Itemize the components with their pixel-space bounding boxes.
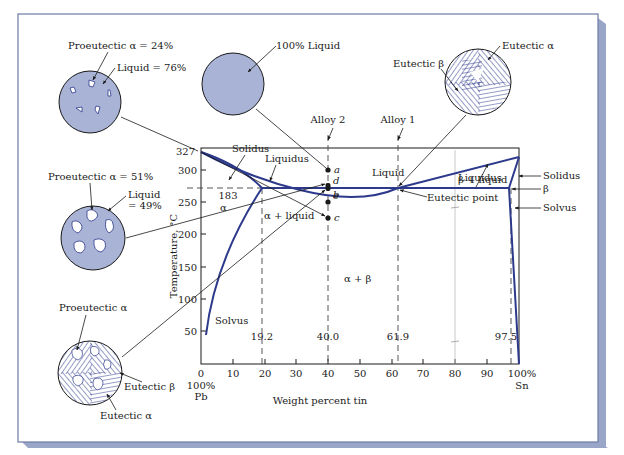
x-tick-30: 30 bbox=[290, 368, 303, 379]
x-axis-label: Weight percent tin bbox=[273, 395, 368, 406]
comp-19-2: 19.2 bbox=[251, 331, 273, 342]
label-eutectic-alpha-tr: Eutectic α bbox=[502, 40, 554, 51]
label-liquid-49-a: Liquid bbox=[128, 189, 161, 200]
annot-liquidus-right: Liquidus bbox=[458, 172, 502, 183]
x-tick-40: 40 bbox=[322, 368, 335, 379]
point-e-label: e bbox=[333, 190, 339, 201]
alloy-2-label: Alloy 2 bbox=[310, 114, 346, 125]
x-tick-100: 100% bbox=[508, 368, 537, 379]
alloy-1-label: Alloy 1 bbox=[380, 114, 416, 125]
annot-eutectic-point: Eutectic point bbox=[427, 192, 498, 203]
y-tick-250: 250 bbox=[178, 197, 197, 208]
point-d: d bbox=[333, 175, 339, 186]
annot-solvus-left: Solvus bbox=[215, 315, 248, 326]
region-liquid: Liquid bbox=[372, 167, 405, 178]
label-eutectic-alpha-bl: Eutectic α bbox=[100, 410, 152, 421]
annot-solidus-left: Solidus bbox=[232, 143, 269, 154]
point-a: a bbox=[334, 164, 340, 175]
label-proeutectic-24: Proeutectic α = 24% bbox=[68, 40, 173, 51]
y-tick-150: 150 bbox=[178, 262, 197, 273]
x-tick-90: 90 bbox=[481, 368, 494, 379]
figure: 50 100 150 200 250 300 327 0 10 20 30 40… bbox=[0, 0, 624, 455]
y-tick-200: 200 bbox=[178, 229, 197, 240]
x-tick-10: 10 bbox=[227, 368, 240, 379]
annot-solidus-right: Solidus bbox=[543, 170, 580, 181]
y-tick-327: 327 bbox=[176, 146, 195, 157]
label-eutectic-beta-tr: Eutectic β bbox=[393, 58, 444, 69]
annot-liquidus-left: Liquidus bbox=[265, 153, 309, 164]
x-end-sn: Sn bbox=[515, 380, 529, 391]
x-tick-80: 80 bbox=[449, 368, 462, 379]
y-tick-50: 50 bbox=[184, 326, 197, 337]
region-alpha-beta: α + β bbox=[344, 273, 371, 284]
comp-97-5: 97.5 bbox=[495, 331, 517, 342]
comp-40-0: 40.0 bbox=[317, 331, 339, 342]
label-liquid-76: Liquid = 76% bbox=[117, 62, 186, 73]
label-liquid-49-b: = 49% bbox=[128, 200, 162, 211]
comp-61-9: 61.9 bbox=[387, 331, 409, 342]
label-proeutectic-51: Proeutectic α = 51% bbox=[48, 171, 153, 182]
label-eutectic-beta-bl: Eutectic β bbox=[124, 381, 175, 392]
x-tick-60: 60 bbox=[386, 368, 399, 379]
label-proeutectic-bl: Proeutectic α bbox=[59, 302, 127, 313]
x-tick-70: 70 bbox=[417, 368, 430, 379]
x-end-pb-pct: 100% bbox=[187, 380, 216, 391]
x-tick-0: 0 bbox=[198, 368, 204, 379]
x-tick-50: 50 bbox=[354, 368, 367, 379]
label-liquid-100: 100% Liquid bbox=[276, 40, 341, 51]
x-end-pb: Pb bbox=[194, 391, 207, 402]
eutectic-temp-label: 183 bbox=[218, 190, 237, 201]
point-c: c bbox=[334, 212, 340, 223]
annot-beta: β bbox=[543, 183, 549, 194]
y-tick-300: 300 bbox=[178, 165, 197, 176]
annot-solvus-right: Solvus bbox=[543, 202, 576, 213]
x-tick-20: 20 bbox=[259, 368, 272, 379]
